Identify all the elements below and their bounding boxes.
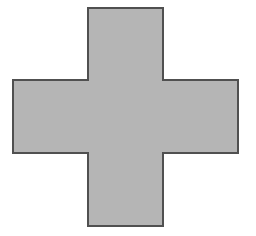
cross-shape: [13, 8, 238, 226]
diagram-canvas: [0, 0, 256, 236]
cross-diagram: [0, 0, 256, 236]
